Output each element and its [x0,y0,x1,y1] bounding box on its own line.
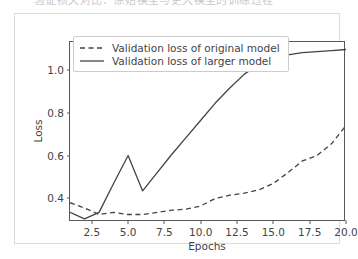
x-tick-label: 2.5 [83,220,100,238]
y-axis-label: Loss [32,119,44,142]
figure-frame: 0.40.60.81.0 Loss 2.55.07.510.012.515.01… [14,13,340,244]
legend-label-original-model: Validation loss of original model [112,42,280,54]
x-axis-label: Epochs [188,240,226,252]
x-tick-label: 10.0 [189,220,212,238]
x-tick-label: 20.0 [334,220,357,238]
x-tick-label: 15.0 [262,220,285,238]
x-tick-label: 7.5 [156,220,173,238]
y-tick-label: 1.0 [47,64,70,76]
plot-area: 0.40.60.81.0 Loss 2.55.07.510.012.515.01… [69,41,345,221]
caption-text: 验证损失对比：原始模型与更大模型的训练过程 [34,0,273,7]
x-tick-label: 17.5 [298,220,321,238]
series-line-original-model [70,126,346,215]
y-tick-label: 0.6 [47,150,70,162]
y-tick-label: 0.8 [47,107,70,119]
legend-item: Validation loss of larger model [79,54,280,67]
solid-line-swatch [79,56,105,66]
x-tick-label: 12.5 [225,220,248,238]
legend-label-larger-model: Validation loss of larger model [112,55,271,67]
series-line-larger-model [70,50,346,219]
legend-item: Validation loss of original model [79,41,280,54]
dashed-line-swatch [79,43,105,53]
y-tick-label: 0.4 [47,192,70,204]
x-tick-label: 5.0 [120,220,137,238]
clipped-caption-strip: 验证损失对比：原始模型与更大模型的训练过程 [0,0,355,9]
legend: Validation loss of original model Valida… [73,36,289,72]
